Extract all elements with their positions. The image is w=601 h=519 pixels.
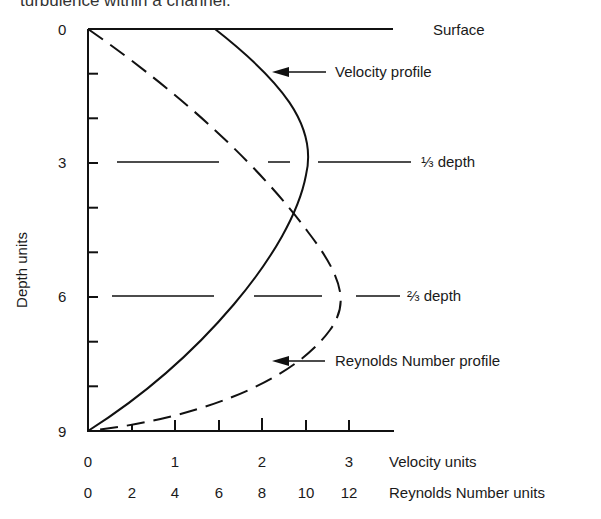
- reynolds-tick-label: 6: [215, 484, 223, 501]
- velocity-tick-label: 0: [84, 453, 92, 470]
- y-tick-label: 0: [58, 21, 66, 38]
- velocity-tick-label: 2: [258, 453, 266, 470]
- velocity-tick-label: 1: [171, 453, 179, 470]
- velocity-arrow-head: [272, 67, 289, 77]
- reynolds-profile-label: Reynolds Number profile: [335, 352, 500, 369]
- reynolds-tick-label: 12: [341, 484, 358, 501]
- reynolds-profile-curve: [88, 29, 341, 431]
- velocity-tick-label: 3: [345, 453, 353, 470]
- y-ticks: [88, 74, 98, 387]
- velocity-profile-curve: [88, 29, 308, 431]
- reynolds-tick-label: 10: [298, 484, 315, 501]
- reynolds-axis-title: Reynolds Number units: [389, 484, 545, 501]
- y-tick-label: 3: [58, 154, 66, 171]
- reynolds-tick-label: 4: [171, 484, 179, 501]
- two-third-depth-label: ⅔ depth: [407, 287, 461, 304]
- y-tick-label: 9: [58, 423, 66, 440]
- reynolds-tick-label: 8: [258, 484, 266, 501]
- reynolds-arrow-head: [272, 356, 289, 366]
- reynolds-tick-label: 2: [128, 484, 136, 501]
- velocity-profile-label: Velocity profile: [335, 63, 432, 80]
- reynolds-tick-label: 0: [84, 484, 92, 501]
- surface-label: Surface: [433, 21, 485, 38]
- y-tick-label: 6: [58, 288, 66, 305]
- x-ticks: [132, 418, 349, 431]
- third-depth-label: ⅓ depth: [421, 153, 475, 170]
- velocity-axis-title: Velocity units: [389, 453, 477, 470]
- y-axis-title: Depth units: [13, 232, 30, 308]
- depth-profile-chart: Surface Velocity profile ⅓ depth ⅔ depth…: [0, 0, 601, 519]
